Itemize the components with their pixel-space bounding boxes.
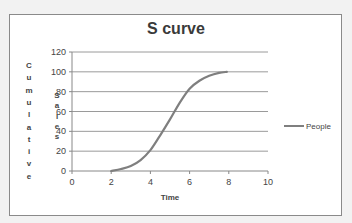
svg-text:S: S	[54, 91, 60, 100]
legend-label-people: People	[306, 122, 331, 131]
x-tick-label: 2	[109, 177, 114, 187]
x-tick-label: 4	[148, 177, 153, 187]
y-tick-label: 20	[56, 146, 66, 156]
svg-text:a: a	[55, 101, 60, 110]
axes	[69, 52, 268, 174]
series-line-people	[111, 72, 227, 171]
chart-plot: 0204060801001200246810 CumulativeSales T…	[0, 0, 352, 223]
svg-text:a: a	[27, 123, 32, 132]
x-tick-label: 8	[226, 177, 231, 187]
y-axis-label: CumulativeSales	[25, 61, 60, 181]
svg-text:e: e	[27, 172, 32, 181]
svg-text:l: l	[56, 112, 58, 121]
svg-text:s: s	[55, 132, 60, 141]
svg-text:u: u	[27, 73, 32, 82]
tick-labels: 0204060801001200246810	[51, 47, 273, 187]
x-tick-label: 10	[263, 177, 273, 187]
svg-text:m: m	[25, 86, 32, 95]
y-tick-label: 100	[51, 67, 66, 77]
x-tick-label: 6	[187, 177, 192, 187]
svg-text:e: e	[55, 122, 60, 131]
svg-text:v: v	[27, 159, 32, 168]
gridlines	[72, 52, 268, 151]
svg-text:l: l	[28, 110, 30, 119]
y-tick-label: 0	[61, 166, 66, 176]
x-tick-label: 0	[69, 177, 74, 187]
legend: People	[284, 122, 331, 131]
svg-text:t: t	[28, 135, 31, 144]
svg-text:i: i	[28, 147, 30, 156]
svg-text:C: C	[26, 61, 32, 70]
y-tick-label: 120	[51, 47, 66, 57]
x-axis-label: Time	[161, 193, 180, 202]
svg-text:u: u	[27, 98, 32, 107]
